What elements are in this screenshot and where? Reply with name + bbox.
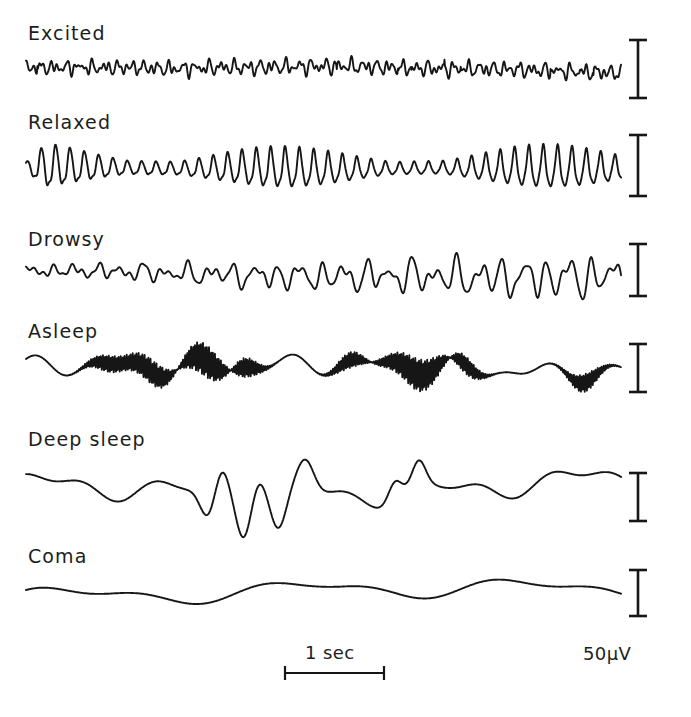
eeg-trace-relaxed [26, 144, 621, 187]
trace-label-drowsy: Drowsy [28, 228, 105, 250]
eeg-waveform-canvas [0, 0, 691, 717]
time-scale-label: 1 sec [305, 642, 355, 663]
waveform-group [26, 56, 621, 604]
trace-label-relaxed: Relaxed [28, 111, 111, 133]
trace-label-deep-sleep: Deep sleep [28, 428, 146, 450]
trace-label-excited: Excited [28, 22, 106, 44]
trace-label-asleep: Asleep [28, 320, 98, 342]
eeg-trace-deep-sleep [26, 460, 621, 538]
trace-label-coma: Coma [28, 545, 87, 567]
eeg-trace-excited [26, 56, 621, 80]
eeg-figure: Excited Relaxed Drowsy Asleep Deep sleep… [0, 0, 691, 717]
eeg-trace-asleep [26, 342, 621, 391]
eeg-trace-coma [26, 580, 621, 604]
voltage-scale-label: 50µV [583, 643, 631, 664]
eeg-trace-drowsy [26, 253, 621, 299]
